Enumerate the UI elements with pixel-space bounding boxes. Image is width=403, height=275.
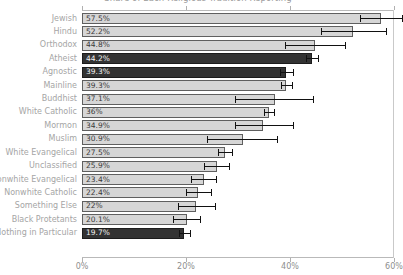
category-label: White Catholic (19, 108, 77, 116)
bar-value-label: 25.9% (86, 162, 110, 170)
error-cap-low (186, 189, 187, 196)
error-bar (173, 219, 200, 220)
bar-value-label: 52.2% (86, 28, 110, 36)
error-bar (360, 18, 402, 19)
bar[interactable]: 44.8% (82, 40, 315, 51)
category-label: Hindu (54, 28, 77, 36)
bar-row[interactable]: Mormon34.9% (82, 120, 394, 131)
error-cap-high (277, 136, 278, 143)
category-label: Nonwhite Catholic (4, 189, 77, 197)
bar-value-label: 34.9% (86, 122, 110, 130)
x-tick-top (290, 6, 291, 10)
x-tick-top (82, 6, 83, 10)
bar[interactable]: 22.4% (82, 187, 198, 198)
axis-line-top (82, 10, 394, 11)
bar[interactable]: 39.3% (82, 80, 286, 91)
category-label: Muslim (49, 135, 77, 143)
error-cap-high (232, 149, 233, 156)
error-cap-low (306, 55, 307, 62)
error-cap-low (191, 176, 192, 183)
error-bar (321, 31, 386, 32)
error-cap-high (292, 82, 293, 89)
error-bar (178, 206, 214, 207)
x-tick-top (186, 6, 187, 10)
bar[interactable]: 20.1% (82, 214, 187, 225)
category-label: Unclassified (29, 162, 77, 170)
error-bar (186, 192, 211, 193)
category-label: Agnostic (43, 68, 77, 76)
error-bar (235, 99, 313, 100)
bar-value-label: 22.4% (86, 189, 110, 197)
error-cap-high (293, 69, 294, 76)
bar-value-label: 57.5% (86, 15, 110, 23)
bar[interactable]: 36% (82, 107, 269, 118)
bar[interactable]: 23.4% (82, 174, 204, 185)
category-label: Jewish (52, 15, 77, 23)
category-label: Something Else (15, 202, 77, 210)
error-cap-high (200, 216, 201, 223)
bar[interactable]: 44.2% (82, 53, 312, 64)
x-tick-label: 40% (281, 262, 299, 271)
error-cap-high (293, 122, 294, 129)
category-label: Orthodox (40, 41, 77, 49)
bar-value-label: 19.7% (86, 229, 110, 237)
category-label: Mormon (44, 122, 77, 130)
bar-row[interactable]: Nonwhite Catholic22.4% (82, 187, 394, 198)
error-cap-low (280, 69, 281, 76)
error-bar (264, 112, 274, 113)
error-cap-low (179, 230, 180, 237)
bar-row[interactable]: Orthodox44.8% (82, 40, 394, 51)
error-cap-high (229, 163, 230, 170)
error-cap-high (190, 230, 191, 237)
bar-value-label: 23.4% (86, 176, 110, 184)
bar-value-label: 37.1% (86, 95, 110, 103)
bar-value-label: 36% (86, 109, 103, 117)
bar-row[interactable]: Mainline39.3% (82, 80, 394, 91)
error-cap-low (281, 82, 282, 89)
bar-value-label: 30.9% (86, 136, 110, 144)
bar-row[interactable]: Atheist44.2% (82, 53, 394, 64)
bar-row[interactable]: Jewish57.5% (82, 13, 394, 24)
bar-row[interactable]: Buddhist37.1% (82, 94, 394, 105)
bar[interactable]: 25.9% (82, 161, 217, 172)
plot-area: 0%20%40%60%Jewish57.5%Hindu52.2%Orthodox… (82, 10, 394, 258)
category-label: White Evangelical (5, 149, 77, 157)
bar-row[interactable]: Agnostic39.3% (82, 67, 394, 78)
error-bar (218, 152, 232, 153)
x-axis-line (82, 257, 394, 258)
error-bar (281, 85, 291, 86)
error-cap-low (218, 149, 219, 156)
error-cap-high (386, 28, 387, 35)
category-label: Mainline (43, 82, 77, 90)
bar[interactable]: 39.3% (82, 67, 286, 78)
error-bar (280, 72, 294, 73)
bar[interactable]: 19.7% (82, 228, 184, 239)
bar-row[interactable]: Hindu52.2% (82, 26, 394, 37)
bar[interactable]: 27.5% (82, 147, 225, 158)
category-label: Nothing in Particular (0, 229, 77, 237)
bar-row[interactable]: Muslim30.9% (82, 134, 394, 145)
error-bar (235, 125, 292, 126)
category-label: Nonwhite Evangelical (0, 176, 77, 184)
error-cap-high (318, 55, 319, 62)
bar-value-label: 22% (86, 203, 103, 211)
bar-row[interactable]: Nothing in Particular19.7% (82, 228, 394, 239)
error-cap-low (207, 136, 208, 143)
bar-row[interactable]: Nonwhite Evangelical23.4% (82, 174, 394, 185)
error-cap-low (178, 203, 179, 210)
bar[interactable]: 57.5% (82, 13, 381, 24)
bar-row[interactable]: Black Protetants20.1% (82, 214, 394, 225)
chart-title: Share of Each Religious Tradition Report… (0, 0, 396, 3)
error-cap-low (235, 96, 236, 103)
category-label: Buddhist (42, 95, 77, 103)
error-cap-high (211, 189, 212, 196)
error-cap-low (264, 109, 265, 116)
bar[interactable]: 52.2% (82, 26, 353, 37)
bar-row[interactable]: Unclassified25.9% (82, 161, 394, 172)
error-cap-high (215, 203, 216, 210)
error-cap-high (216, 176, 217, 183)
bar-row[interactable]: Something Else22% (82, 201, 394, 212)
error-bar (204, 166, 229, 167)
bar-row[interactable]: White Evangelical27.5% (82, 147, 394, 158)
bar-row[interactable]: White Catholic36% (82, 107, 394, 118)
